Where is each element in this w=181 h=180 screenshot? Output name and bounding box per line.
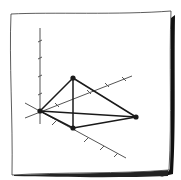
tetrahedron-sketch bbox=[0, 0, 181, 180]
vertex-apex bbox=[70, 75, 75, 80]
vertex-origin bbox=[37, 108, 42, 113]
vertex-front bbox=[70, 125, 75, 130]
vertex-right bbox=[133, 114, 138, 119]
paper-sheet bbox=[10, 11, 171, 175]
